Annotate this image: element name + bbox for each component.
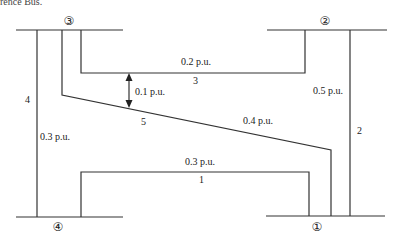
line-5-number: 5 (141, 116, 146, 127)
line-5-impedance: 0.4 p.u. (243, 115, 273, 126)
line-2-number: 2 (357, 125, 362, 136)
line-1 (81, 172, 309, 217)
power-network-diagram: rence Bus. ③ ② ④ ① 0.1 p.u. 0.2 p.u. 3 4… (0, 0, 400, 243)
bus-3-label: ③ (64, 14, 75, 28)
line-3-number: 3 (193, 75, 198, 86)
line-1-impedance: 0.3 p.u. (185, 156, 215, 167)
line-4-number: 4 (25, 94, 30, 105)
line-3-impedance: 0.2 p.u. (181, 56, 211, 67)
mutual-impedance-label: 0.1 p.u. (135, 86, 165, 97)
line-4-impedance: 0.3 p.u. (40, 131, 70, 142)
line-2-impedance: 0.5 p.u. (313, 85, 343, 96)
bus-1-label: ① (312, 220, 323, 234)
bus-2-label: ② (320, 14, 331, 28)
mutual-coupling-arrow (126, 73, 133, 108)
clipped-header-text: rence Bus. (0, 0, 42, 7)
bus-4-label: ④ (53, 220, 64, 234)
line-1-number: 1 (199, 174, 204, 185)
